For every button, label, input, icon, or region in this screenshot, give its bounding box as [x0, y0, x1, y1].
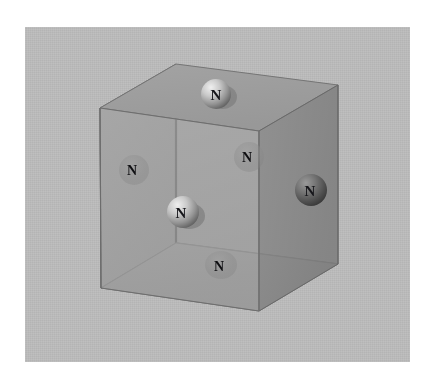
atom-left-face: N: [119, 155, 149, 185]
atom-back-right-face: N: [234, 142, 264, 172]
unit-cell-cube: N N N N N N: [0, 0, 432, 389]
atom-top-face-label: N: [211, 87, 222, 103]
figure-stage: N N N N N N: [0, 0, 432, 389]
atom-bottom-face: N: [205, 251, 237, 279]
atom-left-face-label: N: [127, 163, 137, 178]
atom-center-label: N: [176, 205, 187, 221]
atom-back-right-face-label: N: [242, 150, 252, 165]
atom-right-face: N: [295, 174, 327, 206]
atom-right-face-label: N: [305, 183, 316, 199]
atom-bottom-face-label: N: [214, 259, 224, 274]
